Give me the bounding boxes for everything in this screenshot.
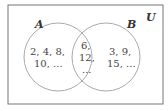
set-b-label: B — [126, 18, 136, 31]
set-a-label: A — [34, 18, 44, 31]
intersection-line2: 12, — [79, 52, 95, 63]
intersection-line1: 6, — [81, 40, 91, 51]
venn-diagram: U A B 2, 4, 8, 10, ... 6, 12, ... 3, 9, … — [0, 0, 168, 111]
set-b-elements-line2: 15, ... — [107, 58, 136, 69]
set-a-elements-line1: 2, 4, 8, — [30, 46, 65, 57]
universe-label: U — [146, 11, 157, 24]
set-a-elements-line2: 10, ... — [34, 58, 63, 69]
set-b-elements-line1: 3, 9, — [109, 46, 131, 57]
intersection-line3: ... — [82, 64, 92, 75]
